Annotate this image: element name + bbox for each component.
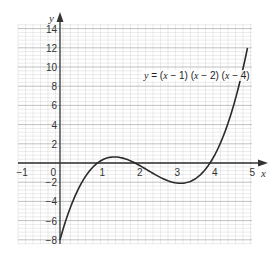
y-tick-label: 14 bbox=[46, 24, 58, 35]
y-axis-arrow-icon bbox=[57, 12, 64, 22]
tick-labels: −10123451412108642−2−4−6−8 bbox=[17, 24, 256, 246]
x-tick-label: 2 bbox=[137, 167, 143, 178]
x-tick-label: 1 bbox=[100, 167, 106, 178]
cubic-function-chart: −10123451412108642−2−4−6−8 y = (x − 1) (… bbox=[0, 0, 278, 254]
x-tick-label: 3 bbox=[175, 167, 181, 178]
x-tick-label: −1 bbox=[17, 167, 29, 178]
y-tick-label: 8 bbox=[51, 81, 57, 92]
x-axis-arrow-icon bbox=[258, 160, 268, 167]
y-tick-label: 4 bbox=[51, 120, 57, 131]
y-tick-label: 2 bbox=[51, 139, 57, 150]
graph-paper-grid bbox=[18, 24, 252, 244]
y-tick-label: −2 bbox=[46, 177, 58, 188]
y-tick-label: −6 bbox=[46, 216, 58, 227]
y-tick-label: 10 bbox=[46, 62, 58, 73]
y-tick-label: 12 bbox=[46, 43, 58, 54]
x-tick-label: 4 bbox=[212, 167, 218, 178]
x-axis-label: x bbox=[260, 167, 266, 179]
x-tick-label: 5 bbox=[250, 167, 256, 178]
y-tick-label: 6 bbox=[51, 100, 57, 111]
y-tick-label: −8 bbox=[46, 235, 58, 246]
y-tick-label: −4 bbox=[46, 196, 58, 207]
y-axis-label: y bbox=[48, 12, 54, 24]
equation-label: y = (x − 1) (x − 2) (x − 4) bbox=[143, 70, 250, 81]
